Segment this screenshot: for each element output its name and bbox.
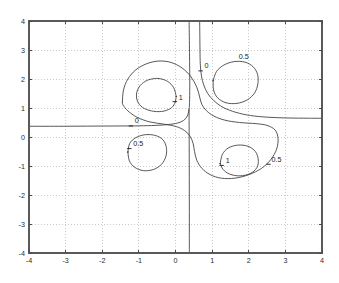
x-tick-label: -4	[26, 256, 32, 265]
y-tick-label: 4	[21, 17, 25, 26]
contour-upper-left-outer-lobe	[122, 61, 278, 179]
contour-label-half-lower-left: 0.5	[133, 139, 143, 148]
x-tick-label: 4	[320, 256, 324, 265]
contour-upper-right-loop	[213, 61, 258, 103]
contour-label-zero-left: 0	[135, 116, 139, 125]
x-tick-label: -2	[99, 256, 105, 265]
contour-label-half-lower-right: 0.5	[272, 155, 282, 164]
y-tick-label: -2	[19, 191, 25, 200]
y-tick-label: 2	[21, 75, 25, 84]
y-tick-label: -4	[19, 249, 25, 258]
x-tick-label: 0	[174, 256, 178, 265]
y-tick-label: 1	[21, 104, 25, 113]
y-tick-label: -3	[19, 220, 25, 229]
contour-label-half-upper-right: 0.5	[239, 52, 249, 61]
y-tick-label: -1	[19, 162, 25, 171]
contour-curves	[29, 21, 322, 253]
x-tick-label: -3	[62, 256, 68, 265]
x-tick-label: 2	[247, 256, 251, 265]
x-tick-label: 3	[283, 256, 287, 265]
contour-plot: -4-3-2-101234-4-3-2-101234 000.510.510.5	[0, 0, 339, 283]
contour-label-zero-top: 0	[205, 61, 209, 70]
contour-upper-left-inner-loop	[136, 78, 176, 111]
y-tick-label: 0	[21, 133, 25, 142]
figure-container: -4-3-2-101234-4-3-2-101234 000.510.510.5	[0, 0, 339, 283]
x-tick-label: 1	[210, 256, 214, 265]
x-tick-label: -1	[136, 256, 142, 265]
contour-label-one-lower-right: 1	[226, 156, 230, 165]
contour-label-one-upper-left: 1	[179, 93, 183, 102]
y-tick-label: 3	[21, 46, 25, 55]
